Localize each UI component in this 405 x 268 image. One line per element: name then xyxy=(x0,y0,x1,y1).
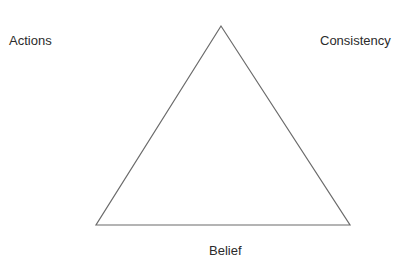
triangle-outline xyxy=(96,26,350,225)
triangle-diagram: Actions Consistency Belief xyxy=(0,0,405,268)
label-consistency: Consistency xyxy=(320,33,391,49)
label-actions: Actions xyxy=(9,33,52,49)
label-belief: Belief xyxy=(209,243,242,259)
